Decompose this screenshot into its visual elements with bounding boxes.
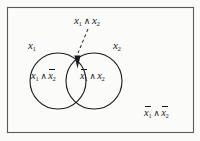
intersection-arrowhead-icon xyxy=(74,56,80,69)
right-only-negation-bar: x1 xyxy=(80,71,88,82)
left-only-negation-bar: x2 xyxy=(48,71,56,82)
intersection-sub-b: 2 xyxy=(97,20,100,27)
label-left-only-region: x1∧x2 xyxy=(31,71,56,82)
intersection-leader-line xyxy=(78,29,88,53)
right-only-operator: ∧ xyxy=(88,71,97,81)
set-x1-subscript: 1 xyxy=(33,45,36,52)
left-only-operator: ∧ xyxy=(39,71,48,81)
right-only-sub-b: 2 xyxy=(102,75,105,82)
neither-operator: ∧ xyxy=(152,108,161,118)
neither-sub-b: 2 xyxy=(166,112,169,119)
left-only-sub-b: 2 xyxy=(53,75,56,82)
venn-diagram-figure: x1∧x2 x1 x2 x1∧x2 x1∧x2 x1∧x2 xyxy=(0,0,200,141)
label-right-only-region: x1∧x2 xyxy=(80,71,105,82)
intersection-operator: ∧ xyxy=(82,16,92,26)
set-x2-label: x2 xyxy=(113,40,121,51)
label-intersection: x1∧x2 xyxy=(74,15,100,26)
set-x2-subscript: 2 xyxy=(118,45,121,52)
set-x1-label: x1 xyxy=(28,40,36,51)
label-neither-region: x1∧x2 xyxy=(144,108,169,119)
neither-negation-bar-a: x1 xyxy=(144,108,152,119)
neither-negation-bar-b: x2 xyxy=(161,108,169,119)
